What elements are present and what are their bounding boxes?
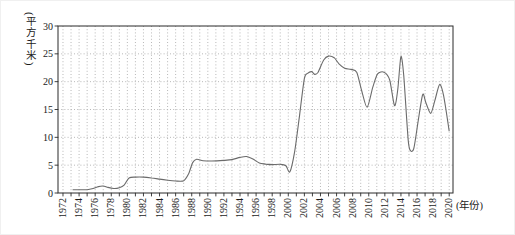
y-tick-label: 15 [29,104,53,115]
x-tick-label: 1978 [106,198,116,226]
x-tick-label: 1994 [235,198,245,226]
y-tick-label: 30 [29,21,53,32]
x-tick-label: 2020 [444,198,454,226]
y-tick-label: 10 [29,132,53,143]
x-tick-label: 1980 [122,198,132,226]
y-tick-label: 25 [29,48,53,59]
x-tick-label: 1990 [203,198,213,226]
y-tick-label: 5 [29,160,53,171]
x-tick-label: 2012 [380,198,390,226]
x-tick-label: 2000 [283,198,293,226]
x-tick-label: 2010 [364,198,374,226]
x-tick-label: 2018 [428,198,438,226]
x-tick-label: 2014 [396,198,406,226]
x-tick-label: 1972 [58,198,68,226]
y-tick-label: 20 [29,76,53,87]
x-tick-label: 1984 [155,198,165,226]
x-tick-label: 1996 [251,198,261,226]
x-tick-label: 1998 [267,198,277,226]
x-tick-label: 1976 [90,198,100,226]
x-tick-label: 2008 [348,198,358,226]
x-tick-label: 2016 [412,198,422,226]
x-tick-label: 2002 [299,198,309,226]
y-tick-label: 0 [29,188,53,199]
x-tick-label: 2006 [332,198,342,226]
x-tick-label: 1986 [171,198,181,226]
x-axis-title: (年份) [456,197,483,212]
plot-border [58,26,453,193]
x-tick-label: 1992 [219,198,229,226]
x-tick-label: 2004 [315,198,325,226]
x-tick-label: 1982 [138,198,148,226]
x-tick-label: 1974 [74,198,84,226]
x-tick-label: 1988 [187,198,197,226]
line-chart-figure: (平方千米) (年份) 051015202530 197219741976197… [0,0,515,235]
